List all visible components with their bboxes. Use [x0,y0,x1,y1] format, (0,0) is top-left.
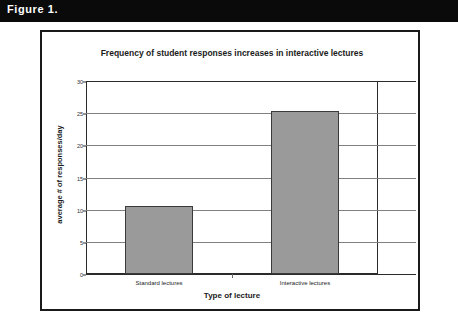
gridline: 30 [86,81,416,82]
y-tick-label: 25 [77,111,83,117]
chart-title: Frequency of student responses increases… [42,48,422,58]
gridline: 0 [86,274,416,275]
x-axis-title: Type of lecture [42,291,422,300]
x-category-label: Interactive lectures [280,280,330,286]
y-tick-mark [83,242,86,243]
y-tick-label: 5 [80,240,83,246]
y-axis-title: average # of responses/day [55,105,64,245]
gridline: 25 [86,113,416,114]
figure-caption: Figure 1. [7,3,58,15]
y-tick-mark [83,210,86,211]
x-tick-mark [232,274,233,278]
chart-frame: Frequency of student responses increases… [40,30,420,311]
y-tick-mark [83,178,86,179]
gridline: 20 [86,145,416,146]
y-tick-label: 10 [77,208,83,214]
x-category-label: Standard lectures [135,280,182,286]
y-tick-mark [83,82,86,83]
gridline: 15 [86,178,416,179]
y-tick-mark [83,146,86,147]
bar-interactive-lectures[interactable] [271,111,339,274]
y-tick-mark [83,275,86,276]
y-tick-label: 30 [77,79,83,85]
plot-wrapper: 051015202530 Standard lecturesInteractiv… [86,81,416,274]
bar-standard-lectures[interactable] [125,206,193,274]
y-tick-label: 0 [80,272,83,278]
y-tick-mark [83,114,86,115]
figure-banner: Figure 1. [0,0,458,22]
y-tick-label: 15 [77,176,83,182]
y-tick-label: 20 [77,143,83,149]
